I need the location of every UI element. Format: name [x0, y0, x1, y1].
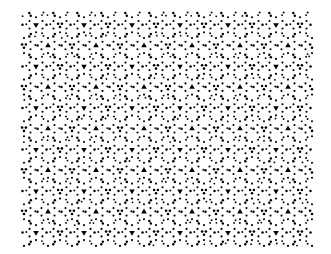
pattern-canvas: [0, 0, 331, 254]
dot-pattern: [21, 12, 314, 247]
